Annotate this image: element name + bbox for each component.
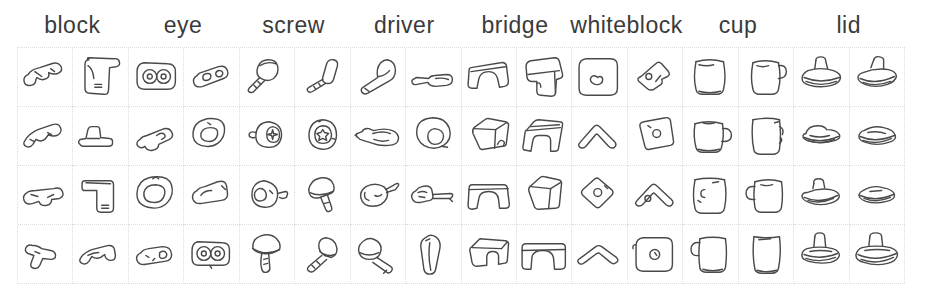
driver-sketch-icon	[351, 166, 405, 224]
cup-sketch-icon	[683, 107, 737, 165]
sketch-cell-driver	[406, 166, 461, 225]
sketch-cell-block	[18, 107, 73, 166]
sketch-cell-whiteblock	[628, 166, 683, 225]
sketch-cell-eye	[184, 48, 239, 107]
sketch-cell-cup	[739, 166, 794, 225]
eye-sketch-icon	[129, 48, 183, 106]
screw-sketch-icon	[295, 166, 349, 224]
sketch-cell-lid	[794, 48, 849, 107]
eye-sketch-icon	[129, 107, 183, 165]
sketch-cell-screw	[295, 48, 350, 107]
sketch-cell-eye	[184, 225, 239, 284]
sketch-cell-eye	[129, 107, 184, 166]
sketch-cell-lid	[850, 107, 905, 166]
cup-sketch-icon	[739, 166, 793, 224]
cup-sketch-icon	[739, 107, 793, 165]
sketch-cell-block	[18, 48, 73, 107]
sketch-cell-block	[73, 107, 128, 166]
sketch-cell-eye	[184, 166, 239, 225]
screw-sketch-icon	[240, 107, 294, 165]
sketch-cell-lid	[850, 225, 905, 284]
sketch-cell-driver	[406, 225, 461, 284]
driver-sketch-icon	[351, 107, 405, 165]
sketch-cell-screw	[240, 107, 295, 166]
sketch-cell-screw	[295, 225, 350, 284]
sketch-cell-bridge	[517, 48, 572, 107]
sketch-cell-driver	[351, 166, 406, 225]
cup-sketch-icon	[683, 166, 737, 224]
cup-sketch-icon	[739, 225, 793, 283]
driver-sketch-icon	[351, 225, 405, 283]
whiteblock-sketch-icon	[628, 166, 682, 224]
sketch-cell-driver	[351, 107, 406, 166]
eye-sketch-icon	[129, 166, 183, 224]
lid-sketch-icon	[850, 48, 904, 106]
sketch-cell-bridge	[462, 166, 517, 225]
sketch-cell-whiteblock	[572, 166, 627, 225]
screw-sketch-icon	[240, 48, 294, 106]
sketch-cell-whiteblock	[628, 225, 683, 284]
sketch-cell-cup	[683, 166, 738, 225]
category-label-bridge: bridge	[460, 6, 571, 44]
lid-sketch-icon	[794, 166, 848, 224]
sketch-cell-bridge	[462, 107, 517, 166]
sketch-dataset-figure: block eye screw driver bridge whiteblock…	[0, 0, 932, 293]
sketch-cell-eye	[184, 107, 239, 166]
whiteblock-sketch-icon	[628, 107, 682, 165]
sketch-grid	[17, 47, 905, 284]
sketch-cell-screw	[295, 107, 350, 166]
eye-sketch-icon	[129, 225, 183, 283]
category-label-block: block	[17, 6, 128, 44]
whiteblock-sketch-icon	[628, 225, 682, 283]
whiteblock-sketch-icon	[572, 166, 626, 224]
sketch-cell-lid	[794, 225, 849, 284]
sketch-cell-eye	[129, 48, 184, 107]
whiteblock-sketch-icon	[572, 107, 626, 165]
sketch-cell-block	[18, 166, 73, 225]
driver-sketch-icon	[406, 166, 460, 224]
screw-sketch-icon	[295, 48, 349, 106]
cup-sketch-icon	[739, 48, 793, 106]
sketch-cell-whiteblock	[572, 225, 627, 284]
sketch-cell-lid	[850, 48, 905, 107]
block-sketch-icon	[18, 107, 72, 165]
sketch-cell-cup	[683, 48, 738, 107]
sketch-cell-lid	[794, 166, 849, 225]
sketch-cell-whiteblock	[572, 107, 627, 166]
driver-sketch-icon	[406, 225, 460, 283]
bridge-sketch-icon	[462, 166, 516, 224]
lid-sketch-icon	[850, 225, 904, 283]
category-label-cup: cup	[683, 6, 794, 44]
cup-sketch-icon	[683, 48, 737, 106]
eye-sketch-icon	[184, 48, 238, 106]
block-sketch-icon	[18, 166, 72, 224]
sketch-cell-eye	[129, 166, 184, 225]
bridge-sketch-icon	[517, 166, 571, 224]
lid-sketch-icon	[794, 107, 848, 165]
block-sketch-icon	[73, 107, 127, 165]
sketch-cell-screw	[240, 225, 295, 284]
driver-sketch-icon	[351, 48, 405, 106]
cup-sketch-icon	[683, 225, 737, 283]
sketch-cell-whiteblock	[628, 107, 683, 166]
sketch-cell-lid	[850, 166, 905, 225]
sketch-cell-driver	[406, 48, 461, 107]
bridge-sketch-icon	[517, 107, 571, 165]
block-sketch-icon	[73, 48, 127, 106]
whiteblock-sketch-icon	[628, 48, 682, 106]
eye-sketch-icon	[184, 166, 238, 224]
bridge-sketch-icon	[462, 107, 516, 165]
eye-sketch-icon	[184, 225, 238, 283]
sketch-cell-cup	[683, 225, 738, 284]
sketch-cell-screw	[240, 166, 295, 225]
sketch-cell-block	[73, 166, 128, 225]
category-label-lid: lid	[793, 6, 904, 44]
block-sketch-icon	[73, 225, 127, 283]
category-label-screw: screw	[238, 6, 349, 44]
block-sketch-icon	[73, 166, 127, 224]
sketch-cell-bridge	[517, 166, 572, 225]
sketch-cell-cup	[683, 107, 738, 166]
sketch-cell-lid	[794, 107, 849, 166]
driver-sketch-icon	[406, 48, 460, 106]
sketch-cell-block	[18, 225, 73, 284]
